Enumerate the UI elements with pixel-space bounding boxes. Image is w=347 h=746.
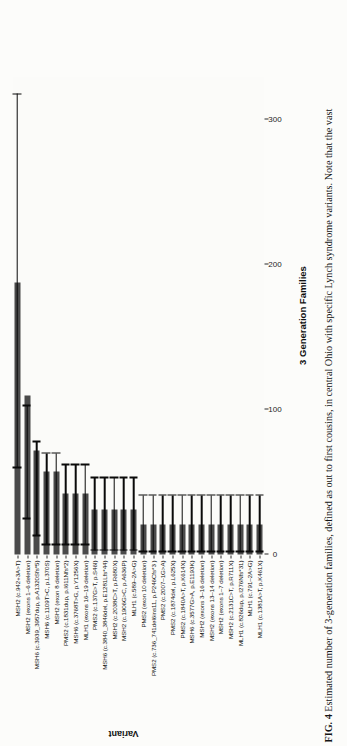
bar-chart-figure: MSH2 (c.942+3A>T)MSH2 (exons 1–6 deletio… xyxy=(0,0,347,746)
caption-holder: FIG. 4 Estimated number of 3-generation … xyxy=(0,0,347,746)
figure-caption-text: Estimated number of 3-generation familie… xyxy=(322,108,333,711)
rotated-figure-wrapper: MSH2 (c.942+3A>T)MSH2 (exons 1–6 deletio… xyxy=(0,0,347,746)
figure-page: MSH2 (c.942+3A>T)MSH2 (exons 1–6 deletio… xyxy=(0,0,347,746)
figure-caption: FIG. 4 Estimated number of 3-generation … xyxy=(322,4,333,742)
figure-label: FIG. 4 xyxy=(322,714,333,742)
